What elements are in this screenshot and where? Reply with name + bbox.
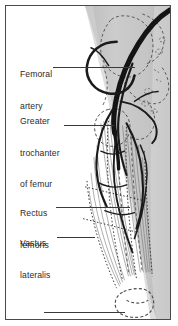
label-vastus-lateralis-line1: Vastus [20, 238, 51, 249]
leader-line-femoral-artery [53, 67, 135, 68]
leader-line-vastus-lateralis [57, 237, 95, 238]
leader-line-greater-trochanter [64, 125, 114, 126]
label-femoral-artery-line1: Femoral [20, 69, 52, 80]
label-vastus-lateralis: Vastus lateralis [20, 217, 51, 301]
label-greater-trochanter-line2: trochanter [20, 148, 60, 159]
figure-panel: Femoral artery Greater trochanter of fem… [0, 0, 178, 326]
leader-line-rectus-femoris [56, 207, 130, 208]
label-knee: Knee [20, 304, 40, 320]
label-greater-trochanter-line1: Greater [20, 116, 60, 127]
illustration-frame: Femoral artery Greater trochanter of fem… [5, 5, 171, 320]
label-vastus-lateralis-line2: lateralis [20, 270, 51, 281]
leader-line-knee [44, 312, 125, 313]
